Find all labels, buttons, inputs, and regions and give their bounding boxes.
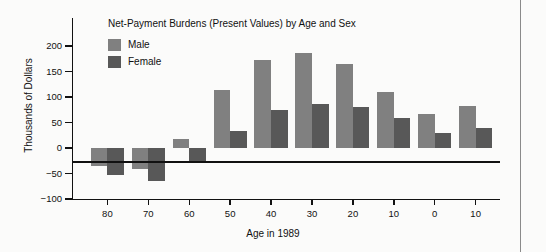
y-tick <box>65 122 73 123</box>
x-tick-label: 0 <box>415 209 455 219</box>
bar-male-age-80-0 <box>91 148 108 166</box>
x-tick-label: 20 <box>333 209 373 219</box>
x-tick <box>107 199 108 205</box>
bar-male-age-60-2 <box>173 139 190 148</box>
y-tick <box>65 173 73 174</box>
x-tick <box>393 199 394 205</box>
x-tick-label: 60 <box>169 209 209 219</box>
bar-male-age-50-3 <box>214 90 231 148</box>
x-tick <box>475 199 476 205</box>
bar-male-age-30-5 <box>295 53 312 148</box>
bar-female-age-0-8 <box>435 133 452 148</box>
x-tick-label: 70 <box>128 209 168 219</box>
bar-female-age-50-3 <box>230 131 247 148</box>
x-axis-title: Age in 1989 <box>0 228 546 239</box>
x-tick-label: 10 <box>456 209 496 219</box>
x-tick <box>311 199 312 205</box>
x-tick-label: 80 <box>87 209 127 219</box>
y-axis-title: Thousands of Dollars <box>23 26 34 186</box>
bar-female-age-40-4 <box>271 110 288 148</box>
x-axis-line <box>72 199 500 200</box>
bar-female-age-70-1 <box>148 148 165 181</box>
x-tick <box>229 199 230 205</box>
bar-male-age-0-8 <box>418 114 435 148</box>
y-tick-label: −100 <box>26 194 62 204</box>
bar-female-age-10-7 <box>394 118 411 148</box>
bar-male-age-10-9 <box>459 106 476 148</box>
bar-chart: Net-Payment Burdens (Present Values) by … <box>0 0 546 252</box>
bar-male-age-40-4 <box>254 60 271 148</box>
x-tick <box>352 199 353 205</box>
zero-baseline <box>72 161 500 162</box>
x-tick-label: 30 <box>292 209 332 219</box>
legend-swatch-female <box>108 56 121 68</box>
legend-label-male: Male <box>128 40 150 50</box>
x-tick-label: 10 <box>374 209 414 219</box>
x-tick <box>434 199 435 205</box>
legend-swatch-male <box>108 39 121 51</box>
chart-legend: Male Female <box>108 38 161 72</box>
chart-title: Net-Payment Burdens (Present Values) by … <box>108 18 356 29</box>
bar-male-age-20-6 <box>336 64 353 148</box>
bar-male-age-10-7 <box>377 92 394 148</box>
bar-female-age-20-6 <box>353 107 370 148</box>
x-tick-label: 50 <box>210 209 250 219</box>
x-tick <box>148 199 149 205</box>
y-tick <box>65 71 73 72</box>
bar-female-age-10-9 <box>476 128 493 148</box>
legend-item-male: Male <box>108 38 161 51</box>
bar-male-age-70-1 <box>132 148 149 169</box>
legend-item-female: Female <box>108 55 161 68</box>
y-tick <box>65 96 73 97</box>
legend-label-female: Female <box>128 57 161 67</box>
bar-female-age-30-5 <box>312 104 329 148</box>
x-tick <box>189 199 190 205</box>
x-tick <box>270 199 271 205</box>
x-tick-label: 40 <box>251 209 291 219</box>
y-tick <box>65 45 73 46</box>
y-tick <box>65 198 73 199</box>
y-tick <box>65 147 73 148</box>
